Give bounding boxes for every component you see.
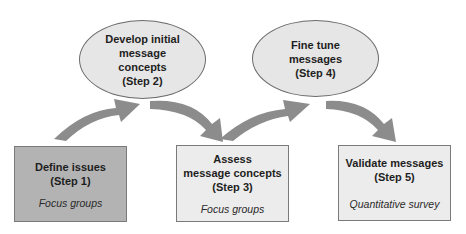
step-2-ellipse: Develop initial message concepts (Step 2… [79, 20, 206, 99]
step-3-box: Assess message concepts (Step 3) Focus g… [176, 145, 289, 222]
step-5-box: Validate messages (Step 5) Quantitative … [338, 145, 451, 221]
step-4-ellipse: Fine tune messages (Step 4) [252, 20, 379, 97]
step-2-label: Develop initial message concepts (Step 2… [105, 32, 180, 88]
step-1-box: Define issues (Step 1) Focus groups [14, 146, 127, 222]
arrow-step4-to-step5 [326, 101, 396, 142]
arrow-step3-to-step4 [220, 100, 310, 141]
step-1-method: Focus groups [39, 197, 103, 209]
step-4-label: Fine tune messages (Step 4) [289, 38, 342, 80]
message-development-process-diagram: Develop initial message concepts (Step 2… [0, 0, 466, 234]
step-5-method: Quantitative survey [350, 198, 440, 210]
step-1-title: Define issues (Step 1) [35, 160, 106, 188]
step-3-method: Focus groups [201, 203, 265, 215]
arrow-step2-to-step3 [150, 101, 223, 142]
step-3-title: Assess message concepts (Step 3) [183, 152, 281, 194]
arrow-step1-to-step2 [54, 99, 140, 141]
step-5-title: Validate messages (Step 5) [346, 156, 444, 184]
